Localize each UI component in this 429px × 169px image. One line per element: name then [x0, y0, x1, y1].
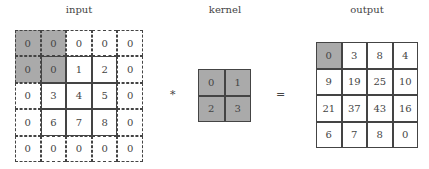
output-cell: 10 [393, 69, 419, 96]
input-cell: 0 [92, 136, 118, 162]
input-cell: 0 [117, 83, 143, 109]
convolution-operator: * [170, 88, 176, 101]
input-title: input [15, 4, 143, 15]
input-cell: 0 [92, 30, 118, 56]
input-cell: 0 [117, 30, 143, 56]
output-cell: 6 [316, 122, 342, 149]
input-cell: 2 [92, 56, 118, 82]
output-cell: 0 [316, 42, 342, 69]
kernel-grid: 0123 [198, 69, 251, 122]
input-cell: 7 [66, 109, 92, 135]
output-cell: 0 [393, 122, 419, 149]
input-cell: 0 [117, 109, 143, 135]
output-cell: 25 [367, 69, 393, 96]
output-cell: 3 [342, 42, 368, 69]
input-cell: 0 [66, 136, 92, 162]
output-cell: 8 [367, 122, 393, 149]
input-cell: 4 [66, 83, 92, 109]
output-title: output [316, 4, 418, 15]
kernel-cell: 1 [225, 69, 252, 96]
input-cell: 0 [41, 136, 67, 162]
input-cell: 0 [41, 56, 67, 82]
input-cell: 0 [117, 136, 143, 162]
input-cell: 0 [66, 30, 92, 56]
input-cell: 8 [92, 109, 118, 135]
input-cell: 0 [15, 30, 41, 56]
output-cell: 4 [393, 42, 419, 69]
kernel-cell: 3 [225, 96, 252, 123]
output-cell: 43 [367, 95, 393, 122]
input-cell: 0 [15, 83, 41, 109]
input-cell: 5 [92, 83, 118, 109]
output-cell: 19 [342, 69, 368, 96]
output-cell: 37 [342, 95, 368, 122]
output-cell: 16 [393, 95, 419, 122]
input-cell: 0 [15, 109, 41, 135]
input-cell: 0 [15, 56, 41, 82]
input-cell: 3 [41, 83, 67, 109]
kernel-cell: 2 [198, 96, 225, 123]
input-cell: 0 [41, 30, 67, 56]
input-grid: 0000000120034500678000000 [15, 30, 143, 162]
input-cell: 0 [117, 56, 143, 82]
output-cell: 9 [316, 69, 342, 96]
output-grid: 03849192510213743166780 [316, 42, 418, 148]
output-cell: 7 [342, 122, 368, 149]
kernel-title: kernel [190, 4, 260, 15]
output-cell: 8 [367, 42, 393, 69]
kernel-cell: 0 [198, 69, 225, 96]
equals-operator: = [276, 88, 285, 101]
output-cell: 21 [316, 95, 342, 122]
input-cell: 6 [41, 109, 67, 135]
input-cell: 0 [15, 136, 41, 162]
input-cell: 1 [66, 56, 92, 82]
